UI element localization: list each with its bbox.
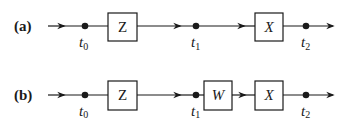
signal-flow-diagram: (a) t0 Z t1 X t2 (b) t0 Z t1 W	[0, 0, 351, 118]
point-t2-dot	[303, 23, 310, 30]
row-b-label: (b)	[14, 87, 32, 104]
point-t0-label: t0	[79, 34, 88, 52]
block-z-label: Z	[118, 19, 127, 35]
row-a: (a) t0 Z t1 X t2	[14, 13, 333, 52]
row-b: (b) t0 Z t1 W X t2	[14, 81, 333, 118]
point-t0-dot	[82, 92, 89, 99]
point-t0-dot	[82, 23, 89, 30]
point-t2-dot	[303, 92, 310, 99]
row-a-label: (a)	[14, 18, 32, 35]
point-t1-label: t1	[191, 103, 200, 118]
block-w-label: W	[212, 87, 226, 103]
point-t0-label: t0	[79, 103, 88, 118]
point-t1-dot	[193, 92, 200, 99]
block-z-label: Z	[118, 87, 127, 103]
block-x-label: X	[263, 87, 274, 103]
point-t2-label: t2	[301, 103, 310, 118]
point-t1-dot	[193, 23, 200, 30]
point-t2-label: t2	[301, 34, 310, 52]
point-t1-label: t1	[191, 34, 200, 52]
block-x-label: X	[263, 19, 274, 35]
